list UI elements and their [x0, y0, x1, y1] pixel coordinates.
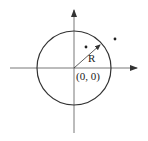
radius-arrow [74, 45, 100, 68]
origin-label: (0, 0) [76, 71, 100, 82]
point-inside-circle [85, 46, 88, 49]
circle-diagram: R (0, 0) [0, 0, 148, 141]
diagram-canvas [0, 0, 148, 141]
radius-label: R [88, 53, 95, 64]
point-outside-circle [114, 38, 117, 41]
